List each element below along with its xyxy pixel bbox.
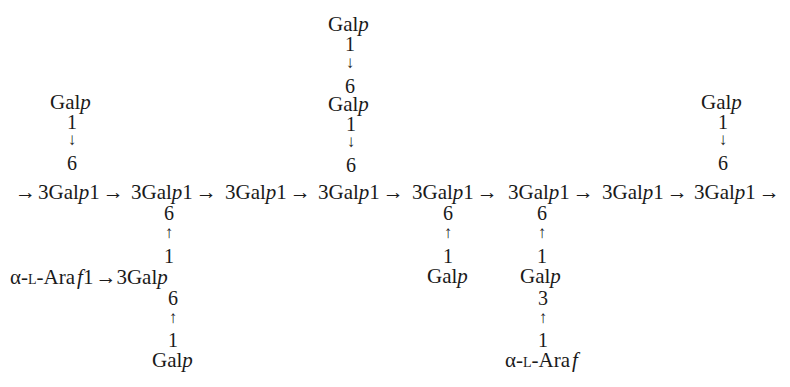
- link-position: 6: [713, 153, 733, 173]
- link-position: 6: [341, 155, 361, 175]
- arrow-up-icon: ↑: [532, 224, 552, 241]
- link-position: 1: [438, 246, 458, 266]
- link-position: 6: [62, 153, 82, 173]
- arrow-up-icon: ↑: [159, 224, 179, 241]
- chain-residue-5: 3Galp1→: [412, 182, 498, 203]
- link-position: 1: [340, 34, 360, 54]
- link-position: 6: [159, 203, 179, 223]
- link-position: 1: [532, 246, 552, 266]
- branch-sugar: Galp: [520, 266, 561, 287]
- link-position: 1: [713, 112, 733, 132]
- chain-residue-6: 3Galp1→: [508, 182, 594, 203]
- link-position: 1: [341, 114, 361, 134]
- branch-sugar-outer: Galp: [328, 14, 369, 35]
- link-position: 6: [438, 203, 458, 223]
- arrow-down-icon: ↓: [340, 54, 360, 71]
- branch-sugar: Galp: [427, 266, 468, 287]
- link-position: 6: [163, 288, 183, 308]
- branch-sugar-inner: Galp: [328, 94, 369, 115]
- arrow-down-icon: ↓: [341, 133, 361, 150]
- link-position: 1: [62, 112, 82, 132]
- branch-sugar: Galp: [701, 92, 742, 113]
- chain-residue-8: 3Galp1→: [694, 182, 780, 203]
- arrow-up-icon: ↑: [438, 224, 458, 241]
- link-position: 1: [163, 330, 183, 350]
- chain-residue-2: 3Galp1→: [131, 182, 217, 203]
- arrow-down-icon: ↓: [713, 131, 733, 148]
- link-position: 1: [159, 246, 179, 266]
- arrow-up-icon: ↑: [533, 309, 553, 326]
- chain-residue-7: 3Galp1→: [602, 182, 688, 203]
- link-position: 1: [533, 330, 553, 350]
- arabinose-substituted-gal: α-L-Araf1→3Galp: [10, 267, 168, 288]
- arrow-down-icon: ↓: [62, 131, 82, 148]
- arabinose-terminal: α-L-Araf: [505, 350, 578, 371]
- branch-sugar-terminal: Galp: [152, 350, 193, 371]
- link-position: 6: [532, 203, 552, 223]
- chain-lead-arrow: →: [15, 182, 36, 203]
- link-position: 3: [533, 288, 553, 308]
- chain-residue-3: 3Galp1→: [225, 182, 311, 203]
- branch-sugar: Galp: [50, 92, 91, 113]
- arrow-up-icon: ↑: [163, 309, 183, 326]
- chain-residue-1: 3Galp1→: [38, 182, 124, 203]
- chain-residue-4: 3Galp1→: [318, 182, 404, 203]
